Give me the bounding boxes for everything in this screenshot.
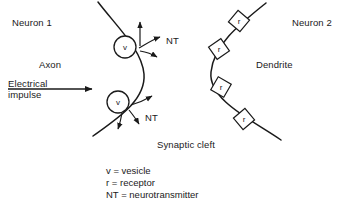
axon-membrane bbox=[93, 2, 144, 136]
label-synaptic-cleft: Synaptic cleft bbox=[157, 139, 215, 150]
nt-arrow-upper-2 bbox=[139, 37, 160, 48]
receptor-1-glyph: r bbox=[238, 17, 241, 26]
vesicle-upper-glyph: v bbox=[123, 43, 127, 52]
vesicle-upper: v bbox=[114, 36, 136, 58]
receptor-4-glyph: r bbox=[243, 115, 246, 124]
nt-arrow-lower-1 bbox=[131, 96, 152, 105]
legend-item-receptor: r = receptor bbox=[106, 177, 199, 189]
legend-item-vesicle: v = vesicle bbox=[106, 165, 199, 177]
label-neuron-1: Neuron 1 bbox=[12, 17, 52, 28]
receptor-2: r bbox=[209, 39, 230, 60]
label-dendrite: Dendrite bbox=[256, 59, 293, 70]
receptor-3-glyph: r bbox=[220, 83, 223, 92]
label-neurotransmitter-top: NT bbox=[166, 35, 179, 46]
diagram-legend: v = vesicle r = receptor NT = neurotrans… bbox=[106, 165, 199, 201]
receptor-1: r bbox=[228, 10, 249, 31]
diagram-canvas: v v r r r r Neuro bbox=[0, 0, 347, 208]
label-electrical-impulse-line2: impulse bbox=[8, 89, 48, 100]
label-electrical-impulse-line1: Electrical bbox=[8, 78, 48, 89]
nt-arrow-upper-3 bbox=[140, 51, 157, 57]
nt-arrow-lower-2 bbox=[129, 110, 139, 124]
label-neurotransmitter-bottom: NT bbox=[145, 112, 158, 123]
legend-item-neurotransmitter: NT = neurotransmitter bbox=[106, 189, 199, 201]
label-electrical-impulse: Electrical impulse bbox=[8, 78, 48, 100]
label-neuron-2: Neuron 2 bbox=[292, 17, 332, 28]
vesicle-lower: v bbox=[107, 91, 129, 113]
vesicle-lower-glyph: v bbox=[116, 98, 120, 107]
receptor-2-glyph: r bbox=[218, 45, 221, 54]
label-axon: Axon bbox=[39, 59, 61, 70]
receptor-3: r bbox=[211, 77, 231, 97]
